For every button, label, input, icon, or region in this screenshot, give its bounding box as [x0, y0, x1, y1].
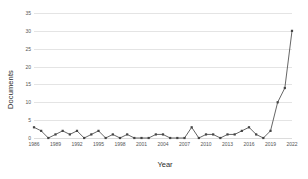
data-point-marker	[176, 137, 178, 139]
x-axis-tick-label: 2013	[222, 142, 233, 147]
y-axis-tick-label: 35	[25, 11, 31, 16]
data-point-marker	[155, 133, 157, 135]
data-point-marker	[54, 133, 56, 135]
y-axis-tick-label: 10	[25, 100, 31, 105]
y-axis-tick-label: 0	[28, 136, 31, 141]
data-point-marker	[140, 137, 142, 139]
data-series-line	[34, 13, 292, 138]
x-axis-tick-label: 1992	[71, 142, 82, 147]
data-point-marker	[112, 133, 114, 135]
data-point-marker	[62, 130, 64, 132]
x-axis-title: Year	[30, 160, 300, 169]
data-point-marker	[277, 101, 279, 103]
data-point-marker	[269, 130, 271, 132]
y-axis-tick-label: 5	[28, 118, 31, 123]
data-point-marker	[47, 137, 49, 139]
data-point-marker	[105, 137, 107, 139]
data-point-marker	[191, 126, 193, 128]
x-axis-tick-label: 2001	[136, 142, 147, 147]
data-point-marker	[148, 137, 150, 139]
data-point-marker	[33, 126, 35, 128]
x-axis-tick-label: 2016	[243, 142, 254, 147]
data-point-marker	[262, 137, 264, 139]
data-point-marker	[205, 133, 207, 135]
gridline	[34, 138, 292, 139]
x-axis-tick-label: 2007	[179, 142, 190, 147]
x-axis-tick-label: 2004	[157, 142, 168, 147]
documents-per-year-line-chart: Documents 353025201510501986198919921995…	[0, 0, 308, 179]
data-point-marker	[291, 30, 293, 32]
data-point-marker	[255, 133, 257, 135]
y-axis-tick-label: 25	[25, 46, 31, 51]
plot-area: 3530252015105019861989199219951998200120…	[34, 13, 292, 138]
data-point-marker	[90, 133, 92, 135]
series-polyline	[34, 31, 292, 138]
data-point-marker	[183, 137, 185, 139]
data-point-marker	[241, 130, 243, 132]
data-point-marker	[234, 133, 236, 135]
data-point-marker	[40, 130, 42, 132]
x-axis-tick-label: 2019	[265, 142, 276, 147]
data-point-marker	[219, 137, 221, 139]
data-point-marker	[212, 133, 214, 135]
x-axis-tick-label: 2022	[286, 142, 297, 147]
data-point-marker	[126, 133, 128, 135]
data-point-marker	[162, 133, 164, 135]
data-point-marker	[248, 126, 250, 128]
x-axis-tick-label: 1989	[50, 142, 61, 147]
data-point-marker	[69, 133, 71, 135]
data-point-marker	[133, 137, 135, 139]
x-axis-tick-label: 1995	[93, 142, 104, 147]
data-point-marker	[83, 137, 85, 139]
x-axis-tick-label: 1986	[28, 142, 39, 147]
y-axis-title: Documents	[3, 0, 17, 179]
data-point-marker	[119, 137, 121, 139]
data-point-marker	[76, 130, 78, 132]
y-axis-tick-label: 20	[25, 64, 31, 69]
data-point-marker	[226, 133, 228, 135]
y-axis-tick-label: 15	[25, 82, 31, 87]
x-axis-tick-label: 1998	[114, 142, 125, 147]
data-point-marker	[198, 137, 200, 139]
x-axis-tick-label: 2010	[200, 142, 211, 147]
data-point-marker	[169, 137, 171, 139]
y-axis-tick-label: 30	[25, 28, 31, 33]
data-point-marker	[284, 87, 286, 89]
data-point-marker	[97, 130, 99, 132]
